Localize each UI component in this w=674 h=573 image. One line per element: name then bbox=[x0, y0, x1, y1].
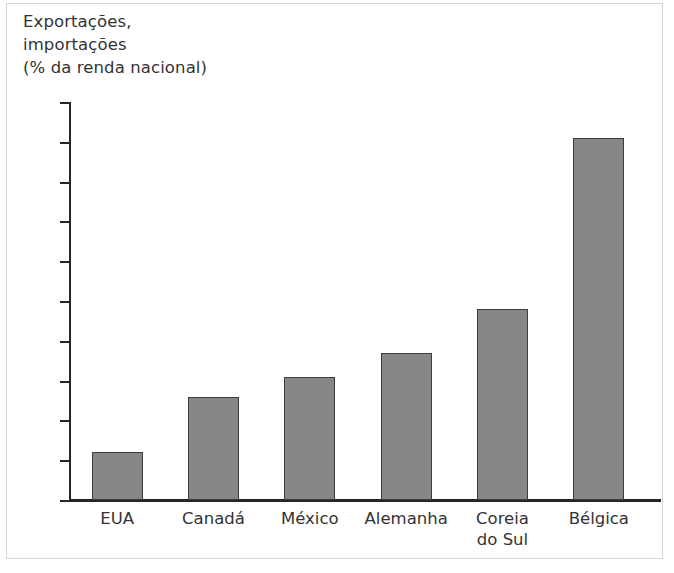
y-axis-tick bbox=[60, 460, 69, 462]
y-axis-tick bbox=[60, 301, 69, 303]
plot-area bbox=[69, 102, 647, 500]
y-axis-tick bbox=[60, 420, 69, 422]
bar bbox=[188, 397, 239, 500]
bar bbox=[573, 138, 624, 500]
x-axis-tick-label: Alemanha bbox=[358, 508, 454, 529]
bar bbox=[92, 452, 143, 500]
y-axis-tick bbox=[60, 182, 69, 184]
y-axis-tick bbox=[60, 142, 69, 144]
x-axis-tick-label: México bbox=[262, 508, 358, 529]
x-axis-tick-label: Coreia do Sul bbox=[454, 508, 550, 550]
y-axis-tick bbox=[60, 261, 69, 263]
y-axis-tick bbox=[60, 102, 69, 104]
bar bbox=[381, 353, 432, 500]
x-axis-tick-label: EUA bbox=[69, 508, 165, 529]
x-axis-tick-label: Bélgica bbox=[551, 508, 647, 529]
y-axis-tick bbox=[60, 500, 69, 502]
y-axis-tick bbox=[60, 221, 69, 223]
chart-figure: Exportações, importações (% da renda nac… bbox=[6, 3, 663, 559]
x-axis-tick-label: Canadá bbox=[165, 508, 261, 529]
y-axis-tick bbox=[60, 381, 69, 383]
bar bbox=[284, 377, 335, 500]
bar bbox=[477, 309, 528, 500]
axis-title: Exportações, importações (% da renda nac… bbox=[23, 10, 207, 79]
y-axis-tick bbox=[60, 341, 69, 343]
